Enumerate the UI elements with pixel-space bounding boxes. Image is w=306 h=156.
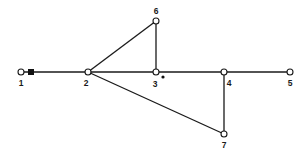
square-marker-icon (28, 69, 34, 75)
edge-2-6 (88, 21, 156, 72)
node-label-1: 1 (19, 78, 24, 88)
node-label-3: 3 (153, 79, 158, 89)
node-3 (153, 69, 159, 75)
edges-group (21, 21, 290, 134)
dot-marker-icon (161, 75, 164, 78)
node-label-4: 4 (227, 78, 232, 88)
node-label-5: 5 (288, 78, 293, 88)
node-label-6: 6 (154, 6, 159, 16)
node-label-2: 2 (84, 78, 89, 88)
node-4 (221, 69, 227, 75)
node-5 (287, 69, 293, 75)
node-label-7: 7 (222, 140, 227, 150)
markers-group (28, 69, 165, 79)
node-1 (18, 69, 24, 75)
node-6 (153, 18, 159, 24)
network-graph: 1234567 (0, 0, 306, 156)
node-7 (221, 131, 227, 137)
node-2 (85, 69, 91, 75)
